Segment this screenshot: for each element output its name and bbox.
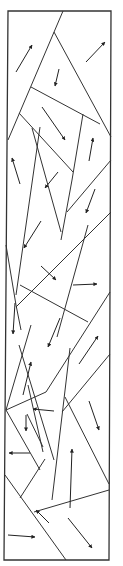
background xyxy=(0,0,123,566)
region-arrow-diagram xyxy=(0,0,123,566)
